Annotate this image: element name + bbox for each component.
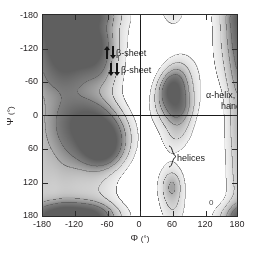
psi-zero-line — [43, 115, 238, 116]
y-ticklabel-minus120: 120 — [23, 177, 38, 188]
y-axis-title-symbol: Ψ — [4, 118, 15, 126]
x-tick-bottom-60 — [173, 211, 174, 216]
y-tick-0 — [43, 115, 48, 116]
x-tick-minus60 — [108, 15, 109, 20]
y-axis-title: Ψ (°) — [4, 106, 15, 125]
x-axis-title-symbol: Φ — [131, 232, 139, 243]
x-ticklabel-0: 0 — [136, 219, 141, 230]
x-tick-60 — [173, 15, 174, 20]
parallel-arrows-icon — [109, 63, 120, 77]
y-tick-right-minus60 — [232, 149, 237, 150]
brace-icon — [168, 145, 177, 168]
y-tick-120 — [43, 49, 48, 50]
y-axis-title-unit: (°) — [6, 106, 15, 115]
y-tick-minus120 — [43, 183, 48, 184]
y-ticklabel-120: -120 — [20, 43, 38, 54]
x-axis-title-unit: (°) — [141, 234, 150, 243]
x-tick-bottom-minus120 — [75, 211, 76, 216]
alpha-helix-symbol: α — [151, 158, 163, 169]
y-tick-minus60 — [43, 149, 48, 150]
x-ticklabel-minus120: -120 — [65, 219, 83, 230]
y-tick-right-120 — [232, 49, 237, 50]
x-ticklabel-minus180: -180 — [33, 219, 51, 230]
x-axis-title: Φ (°) — [131, 232, 150, 243]
y-tick-right-0 — [232, 115, 237, 116]
beta-sheet-antiparallel-label: β-sheet — [116, 48, 146, 59]
left-handed-helix-line2: handed — [206, 101, 238, 112]
antiparallel-arrows-icon — [105, 46, 116, 59]
three-ten-helix-subscript: 10 — [156, 149, 163, 155]
y-ticklabel-minus60: 60 — [28, 143, 38, 154]
x-tick-bottom-0 — [140, 211, 141, 216]
y-tick-60 — [43, 82, 48, 83]
y-ticklabel-0: 0 — [33, 110, 38, 121]
y-tick-right-minus120 — [232, 183, 237, 184]
beta-sheet-parallel-label: β-sheet — [121, 65, 151, 76]
helices-label: helices — [177, 153, 205, 164]
three-ten-helix-label: 310 — [151, 145, 163, 158]
x-tick-120 — [206, 15, 207, 20]
x-tick-0 — [140, 15, 141, 20]
x-ticklabel-60: 60 — [167, 219, 177, 230]
x-tick-bottom-minus60 — [108, 211, 109, 216]
x-tick-bottom-120 — [206, 211, 207, 216]
x-ticklabel-180: 180 — [229, 219, 244, 230]
ramachandran-figure: β-sheet β-sheet α-helix, left- handed 31… — [0, 0, 261, 255]
y-ticklabel-180: -180 — [20, 10, 38, 21]
left-handed-helix-label: α-helix, left- handed — [206, 90, 238, 112]
y-ticklabel-60: -60 — [25, 76, 38, 87]
plot-area: β-sheet β-sheet α-helix, left- handed 31… — [42, 14, 238, 217]
lower-right-blob-label: 0 — [209, 198, 213, 207]
y-tick-right-60 — [232, 82, 237, 83]
x-ticklabel-minus60: -60 — [100, 219, 113, 230]
x-ticklabel-120: 120 — [197, 219, 212, 230]
helix-types-label: 310 α — [151, 145, 163, 169]
left-handed-helix-line1: α-helix, left- — [206, 90, 238, 100]
y-ticklabel-minus180: 180 — [23, 210, 38, 221]
x-tick-minus120 — [75, 15, 76, 20]
